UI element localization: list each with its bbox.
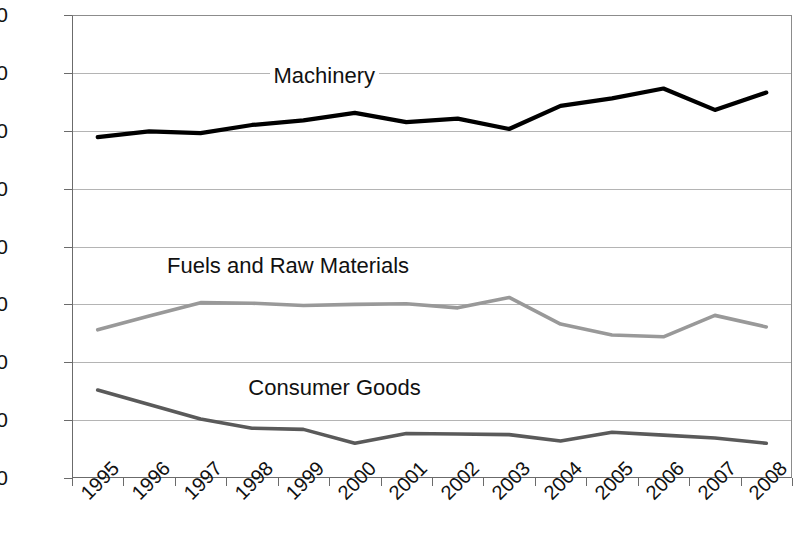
series-line-consumer-goods [98,390,767,443]
series-label-consumer-goods: Consumer Goods [244,377,424,399]
series-label-machinery: Machinery [270,65,379,87]
series-label-fuels-and-raw-materials: Fuels and Raw Materials [163,255,413,277]
series-line-fuels-and-raw-materials [98,297,767,336]
series-line-machinery [98,89,767,138]
line-chart: 01020304050607080 1995199619971998199920… [0,0,798,550]
